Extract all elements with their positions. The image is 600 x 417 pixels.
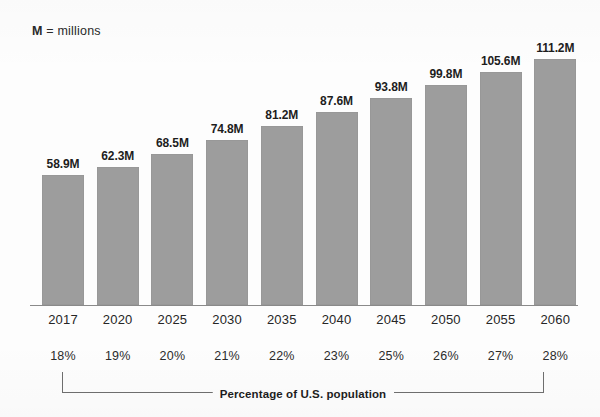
percentage-label: 20%: [151, 349, 193, 363]
bar-group: 81.2M: [261, 40, 303, 305]
bracket-tick-right: [543, 372, 544, 392]
percentage-label: 21%: [206, 349, 248, 363]
bar-group: 99.8M: [425, 40, 467, 305]
x-axis-tick-label: 2055: [480, 312, 522, 327]
percentage-label: 23%: [316, 349, 358, 363]
x-axis-tick-label: 2050: [425, 312, 467, 327]
bar: [480, 72, 522, 305]
unit-legend: M = millions: [32, 24, 101, 38]
bar-group: 87.6M: [316, 40, 358, 305]
bar: [42, 175, 84, 305]
bar: [261, 126, 303, 305]
bracket-tick-left: [62, 372, 63, 392]
percentage-bracket: Percentage of U.S. population: [62, 372, 544, 394]
x-axis-tick-label: 2045: [370, 312, 412, 327]
percentage-label: 22%: [261, 349, 303, 363]
x-axis-tick-label: 2020: [97, 312, 139, 327]
bar-value-label: 62.3M: [101, 149, 134, 163]
percentage-label: 25%: [370, 349, 412, 363]
bar: [206, 140, 248, 305]
bar: [370, 98, 412, 305]
bar-group: 111.2M: [534, 40, 576, 305]
x-axis-line: [30, 305, 578, 306]
percentage-label: 19%: [97, 349, 139, 363]
bar: [534, 59, 576, 305]
secondary-axis-tick-labels: 18%19%20%21%22%23%25%26%27%28%: [30, 349, 578, 369]
bar: [151, 154, 193, 305]
unit-note-text: = millions: [46, 24, 100, 38]
percentage-label: 27%: [480, 349, 522, 363]
bar-value-label: 111.2M: [536, 41, 574, 55]
bar-value-label: 68.5M: [156, 136, 189, 150]
bar: [97, 167, 139, 305]
unit-key: M: [32, 24, 43, 38]
x-axis-tick-label: 2025: [151, 312, 193, 327]
bar-value-label: 93.8M: [375, 80, 408, 94]
bar-value-label: 74.8M: [211, 122, 244, 136]
percentage-label: 18%: [42, 349, 84, 363]
bar-value-label: 87.6M: [320, 94, 353, 108]
x-axis-tick-label: 2017: [42, 312, 84, 327]
bar-value-label: 81.2M: [265, 108, 298, 122]
bracket-rule-right: [394, 392, 544, 393]
bar: [316, 112, 358, 305]
plot-area: 58.9M62.3M68.5M74.8M81.2M87.6M93.8M99.8M…: [30, 40, 578, 305]
bar-group: 74.8M: [206, 40, 248, 305]
bar-value-label: 58.9M: [47, 157, 80, 171]
percentage-label: 26%: [425, 349, 467, 363]
bar-group: 68.5M: [151, 40, 193, 305]
bar-value-label: 99.8M: [429, 67, 462, 81]
bracket-caption: Percentage of U.S. population: [213, 388, 393, 400]
bar-value-label: 105.6M: [481, 54, 520, 68]
x-axis-tick-labels: 2017202020252030203520402045205020552060: [30, 312, 578, 332]
bar: [425, 85, 467, 305]
bar-group: 62.3M: [97, 40, 139, 305]
bracket-rule-left: [62, 392, 220, 393]
percentage-label: 28%: [534, 349, 576, 363]
bar-chart-figure: M = millions 58.9M62.3M68.5M74.8M81.2M87…: [0, 0, 600, 417]
bar-group: 58.9M: [42, 40, 84, 305]
x-axis-tick-label: 2030: [206, 312, 248, 327]
bar-group: 105.6M: [480, 40, 522, 305]
x-axis-tick-label: 2040: [316, 312, 358, 327]
x-axis-tick-label: 2035: [261, 312, 303, 327]
bar-group: 93.8M: [370, 40, 412, 305]
x-axis-tick-label: 2060: [534, 312, 576, 327]
